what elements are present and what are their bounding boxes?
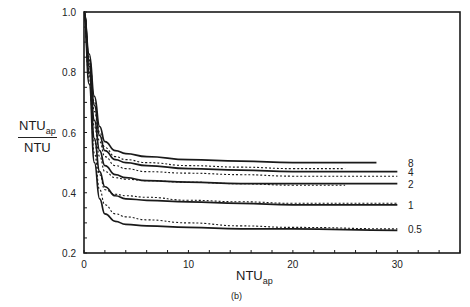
plot-border <box>84 12 460 253</box>
plot-frame <box>84 12 460 253</box>
chart-plot: 01020300.20.40.60.81.0 84210.5 <box>0 0 470 307</box>
x-axis-label: NTUap <box>236 268 273 286</box>
x-tick-label: 0 <box>81 259 87 270</box>
x-tick-label: 10 <box>183 259 195 270</box>
curve-label: 1 <box>408 200 414 211</box>
curves <box>84 12 397 230</box>
curve-label: 0.5 <box>408 224 422 235</box>
y-tick-label: 0.6 <box>62 128 76 139</box>
curve-4-solid <box>84 12 397 172</box>
y-tick-label: 0.2 <box>62 248 76 259</box>
axis-ticks: 01020300.20.40.60.81.0 <box>62 7 460 270</box>
y-label-numerator: NTUap <box>18 118 57 138</box>
y-tick-label: 0.4 <box>62 188 76 199</box>
y-tick-label: 1.0 <box>62 7 76 18</box>
curve-label: 4 <box>408 167 414 178</box>
y-tick-label: 0.8 <box>62 67 76 78</box>
curve-8-dashed <box>84 12 345 169</box>
curve-8-solid <box>84 12 376 163</box>
x-tick-label: 20 <box>287 259 299 270</box>
curve-2-solid <box>84 12 397 184</box>
curve-1-solid <box>84 12 397 205</box>
curve-4-dashed <box>84 12 397 176</box>
y-label-denominator: NTU <box>18 138 57 155</box>
x-tick-label: 30 <box>392 259 404 270</box>
curve-label: 2 <box>408 179 414 190</box>
curve-0_5-solid <box>84 12 397 230</box>
curve-labels: 84210.5 <box>408 158 422 235</box>
figure-caption: (b) <box>231 291 242 301</box>
y-axis-label: NTUap NTU <box>18 118 57 155</box>
